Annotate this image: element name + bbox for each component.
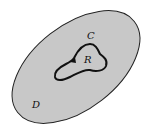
label-d: D (32, 100, 40, 110)
label-r: R (84, 55, 92, 65)
region-d-ellipse (0, 0, 152, 135)
diagram-canvas (0, 0, 152, 135)
label-c: C (87, 31, 95, 41)
